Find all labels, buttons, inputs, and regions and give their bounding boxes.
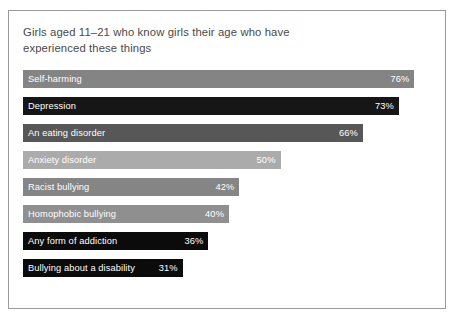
- bar-row: Depression73%: [23, 97, 435, 115]
- bar-row: Self-harming76%: [23, 70, 435, 88]
- bar-category-label: Bullying about a disability: [28, 263, 135, 273]
- bar-value-label: 76%: [391, 74, 410, 84]
- bar-category-label: Racist bullying: [28, 182, 89, 192]
- bar-category-label: Any form of addiction: [28, 236, 117, 246]
- bar-value-label: 73%: [375, 101, 394, 111]
- chart-panel: Girls aged 11–21 who know girls their ag…: [8, 10, 446, 309]
- bar-value-label: 31%: [159, 263, 178, 273]
- bar-row: Homophobic bullying40%: [23, 205, 435, 223]
- bar-value-label: 42%: [215, 182, 234, 192]
- bar: Bullying about a disability31%: [23, 259, 183, 277]
- bar-chart-plot-area: Self-harming76%Depression73%An eating di…: [23, 70, 435, 286]
- bar-value-label: 50%: [257, 155, 276, 165]
- bar: Any form of addiction36%: [23, 232, 208, 250]
- bar: Homophobic bullying40%: [23, 205, 229, 223]
- bar-category-label: Homophobic bullying: [28, 209, 116, 219]
- bar: Racist bullying42%: [23, 178, 239, 196]
- bar-category-label: Self-harming: [28, 74, 82, 84]
- bar-category-label: Anxiety disorder: [28, 155, 96, 165]
- bar-value-label: 36%: [185, 236, 204, 246]
- bar-row: An eating disorder66%: [23, 124, 435, 142]
- bar-category-label: An eating disorder: [28, 128, 105, 138]
- bar-value-label: 40%: [205, 209, 224, 219]
- bar-row: Racist bullying42%: [23, 178, 435, 196]
- bar-row: Bullying about a disability31%: [23, 259, 435, 277]
- bar: Anxiety disorder50%: [23, 151, 281, 169]
- chart-title: Girls aged 11–21 who know girls their ag…: [23, 25, 353, 56]
- bar-category-label: Depression: [28, 101, 76, 111]
- bar: Depression73%: [23, 97, 399, 115]
- bar-value-label: 66%: [339, 128, 358, 138]
- bar-row: Any form of addiction36%: [23, 232, 435, 250]
- bar-row: Anxiety disorder50%: [23, 151, 435, 169]
- bar: Self-harming76%: [23, 70, 414, 88]
- bar: An eating disorder66%: [23, 124, 363, 142]
